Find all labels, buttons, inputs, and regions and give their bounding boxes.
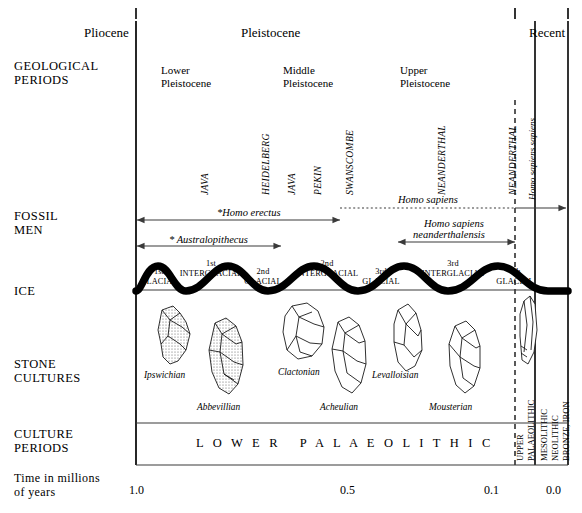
culture-period-lower-palaeolithic: L O W E R P A L A E O L I T H I C — [196, 437, 493, 451]
culture-period-bronze-iron: BRONZE, IRON — [562, 401, 571, 461]
axis-label-line1: Time in millions — [14, 472, 100, 485]
fossil-name-swanscombe: SWANSCOMBE — [345, 130, 355, 195]
subdivision-lower-line1: Lower — [161, 65, 190, 77]
fossil-range-label-homo-sapiens: Homo sapiens — [398, 194, 458, 205]
subdivision-upper-line1: Upper — [400, 65, 428, 77]
row-label-culture-periods-line2: PERIODS — [14, 442, 69, 456]
stone-culture-label-abbevillian: Abbevillian — [197, 402, 240, 412]
axis-tick-1-0: 1.0 — [129, 484, 144, 497]
ice-glacial-1-line2: GLACIAL — [137, 278, 181, 287]
axis-tick-0-1: 0.1 — [484, 484, 499, 497]
stone-tool-illustrations — [158, 296, 537, 394]
stone-culture-label-levalloisian: Levalloisian — [372, 370, 418, 380]
subdivision-lower-line2: Pleistocene — [161, 78, 211, 90]
ice-interglacial-2-line2: INTERGLACIAL — [289, 270, 365, 279]
ice-glacial-1-line1: 1st — [149, 268, 169, 277]
row-label-ice: ICE — [14, 285, 35, 299]
ice-interglacial-2-line1: 2nd — [317, 260, 337, 269]
culture-period-mesolithic: MESOLITHIC — [540, 409, 549, 461]
tool-mousterian — [449, 321, 480, 393]
ice-glacial-4-line1: 4th — [505, 268, 525, 277]
tool-levalloisian — [394, 304, 422, 371]
epoch-label-recent: Recent — [529, 26, 565, 40]
row-label-stone-cultures-line1: STONE — [14, 358, 56, 372]
stone-culture-label-mousterian: Mousterian — [429, 402, 472, 412]
tool-clactonian — [283, 303, 324, 359]
ice-glacial-4-line2: GLACIAL — [493, 278, 537, 287]
axis-label-line2: of years — [14, 486, 56, 499]
stone-culture-label-ipswichian: Ipswichian — [144, 370, 185, 380]
row-label-stone-cultures-line2: CULTURES — [14, 372, 81, 386]
tool-ipswichian — [158, 306, 190, 364]
epoch-label-pliocene: Pliocene — [84, 26, 129, 40]
tool-abbevillian — [209, 318, 243, 394]
fossil-range-label-australopithecus: * Australopithecus — [169, 234, 248, 245]
epoch-label-pleistocene: Pleistocene — [241, 26, 300, 40]
ice-glacial-3-line2: GLACIAL — [359, 278, 403, 287]
subdivision-middle-line2: Pleistocene — [283, 78, 333, 90]
row-label-geological-periods-line1: GEOLOGICAL — [14, 60, 99, 74]
fossil-range-label-neanderthalensis-line1: Homo sapiens — [424, 218, 484, 229]
culture-period-upper-palaeolithic-line2: PALAEOLITHIC — [527, 400, 536, 461]
fossil-name-neanderthal-2: NEANDERTHAL — [508, 125, 518, 195]
row-label-geological-periods-line2: PERIODS — [14, 74, 69, 88]
fossil-name-pekin: PEKIN — [313, 166, 323, 195]
ice-glacial-2-line2: GLACIAL — [241, 278, 285, 287]
ice-interglacial-3-line1: 3rd — [443, 260, 463, 269]
culture-period-neolithic: NEOLITHIC — [551, 415, 560, 461]
ice-interglacial-1-line2: INTERGLACIAL — [173, 270, 249, 279]
stone-culture-label-clactonian: Clactonian — [278, 367, 320, 377]
row-label-culture-periods-line1: CULTURE — [14, 428, 73, 442]
row-label-fossil-men-line2: MEN — [14, 224, 43, 238]
fossil-name-heidelberg: HEIDELBERG — [261, 133, 271, 195]
ice-glacial-2-line1: 2nd — [253, 268, 273, 277]
ice-interglacial-3-line2: INTERGLACIAL — [415, 270, 491, 279]
row-label-fossil-men-line1: FOSSIL — [14, 210, 58, 224]
subdivision-upper-line2: Pleistocene — [400, 78, 450, 90]
fossil-range-label-homo-erectus: *Homo erectus — [217, 207, 280, 218]
axis-tick-0-5: 0.5 — [340, 484, 355, 497]
top-tick-marks — [136, 8, 568, 19]
axis-tick-0-0: 0.0 — [546, 484, 561, 497]
fossil-name-homo-sapiens-sapiens: Homo sapiens sapiens — [528, 118, 538, 200]
fossil-name-java-1: JAVA — [200, 173, 210, 195]
ice-interglacial-1-line1: 1st — [201, 260, 221, 269]
fossil-name-java-2: JAVA — [287, 173, 297, 195]
fossil-name-neanderthal-1: NEANDERTHAL — [437, 125, 447, 195]
fossil-range-label-neanderthalensis-line2: neanderthalensis — [413, 229, 485, 240]
ice-glacial-3-line1: 3rd — [371, 268, 391, 277]
subdivision-middle-line1: Middle — [283, 65, 315, 77]
stone-culture-label-acheulian: Acheulian — [320, 402, 358, 412]
culture-period-upper-palaeolithic-line1: UPPER — [516, 434, 525, 461]
tool-acheulian — [332, 317, 366, 393]
